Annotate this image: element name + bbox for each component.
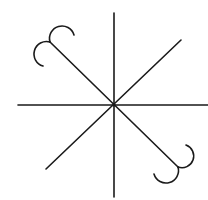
star-diagram bbox=[0, 0, 208, 200]
center-point bbox=[112, 103, 115, 106]
